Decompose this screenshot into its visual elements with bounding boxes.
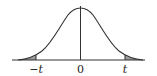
zero-label: 0 <box>77 63 84 76</box>
pos-t-label: t <box>123 63 128 76</box>
bell-curve-diagram: −t 0 t <box>0 0 157 76</box>
neg-t-label: −t <box>29 63 43 76</box>
